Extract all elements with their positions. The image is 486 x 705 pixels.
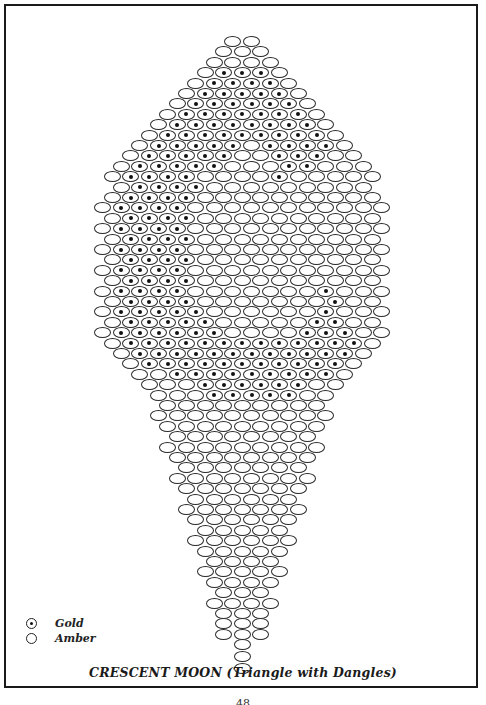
amber-bead bbox=[327, 379, 344, 390]
gold-bead bbox=[243, 78, 260, 89]
gold-bead bbox=[234, 67, 251, 78]
gold-bead bbox=[150, 327, 167, 338]
amber-bead bbox=[224, 514, 241, 525]
amber-bead bbox=[271, 275, 288, 286]
amber-bead bbox=[224, 431, 241, 442]
amber-bead bbox=[280, 452, 297, 463]
gold-bead bbox=[141, 317, 158, 328]
amber-bead bbox=[159, 109, 176, 120]
amber-bead bbox=[159, 400, 176, 411]
amber-bead bbox=[262, 286, 279, 297]
amber-bead bbox=[280, 78, 297, 89]
amber-bead bbox=[187, 514, 204, 525]
amber-bead bbox=[215, 525, 232, 536]
amber-bead bbox=[262, 182, 279, 193]
amber-bead bbox=[224, 182, 241, 193]
amber-bead bbox=[178, 442, 195, 453]
gold-bead bbox=[271, 150, 288, 161]
amber-bead bbox=[252, 150, 269, 161]
amber-bead bbox=[197, 483, 214, 494]
amber-bead bbox=[215, 234, 232, 245]
gold-bead bbox=[271, 130, 288, 141]
amber-bead bbox=[234, 150, 251, 161]
gold-bead bbox=[252, 338, 269, 349]
amber-bead bbox=[215, 483, 232, 494]
amber-bead bbox=[206, 244, 223, 255]
amber-bead bbox=[308, 171, 325, 182]
amber-bead bbox=[113, 161, 130, 172]
amber-bead bbox=[243, 577, 260, 588]
gold-bead bbox=[280, 390, 297, 401]
amber-bead bbox=[345, 234, 362, 245]
amber-bead bbox=[271, 213, 288, 224]
gold-bead bbox=[206, 161, 223, 172]
gold-bead bbox=[169, 348, 186, 359]
amber-bead bbox=[271, 254, 288, 265]
amber-bead bbox=[104, 254, 121, 265]
amber-bead bbox=[299, 182, 316, 193]
amber-bead bbox=[206, 182, 223, 193]
amber-bead bbox=[271, 234, 288, 245]
amber-bead bbox=[234, 651, 251, 662]
amber-bead bbox=[364, 213, 381, 224]
gold-bead bbox=[131, 182, 148, 193]
amber-bead bbox=[299, 306, 316, 317]
amber-bead bbox=[234, 546, 251, 557]
amber-bead bbox=[299, 431, 316, 442]
amber-bead bbox=[290, 192, 307, 203]
amber-bead bbox=[187, 431, 204, 442]
amber-bead bbox=[252, 462, 269, 473]
page-number: 48 bbox=[0, 699, 486, 705]
gold-bead bbox=[131, 161, 148, 172]
amber-bead bbox=[262, 556, 279, 567]
amber-bead bbox=[104, 275, 121, 286]
gold-bead bbox=[197, 358, 214, 369]
amber-bead bbox=[197, 504, 214, 515]
amber-bead bbox=[215, 442, 232, 453]
amber-bead bbox=[271, 483, 288, 494]
amber-bead bbox=[336, 140, 353, 151]
amber-bead bbox=[308, 379, 325, 390]
gold-bead bbox=[308, 130, 325, 141]
gold-bead bbox=[131, 348, 148, 359]
amber-bead bbox=[262, 327, 279, 338]
amber-bead bbox=[299, 98, 316, 109]
gold-bead bbox=[159, 338, 176, 349]
amber-bead bbox=[262, 244, 279, 255]
gold-bead bbox=[206, 98, 223, 109]
amber-bead bbox=[364, 275, 381, 286]
amber-bead bbox=[252, 171, 269, 182]
gold-bead bbox=[159, 130, 176, 141]
gold-bead bbox=[271, 358, 288, 369]
amber-bead bbox=[206, 577, 223, 588]
amber-bead bbox=[290, 504, 307, 515]
gold-bead bbox=[178, 192, 195, 203]
amber-bead bbox=[299, 265, 316, 276]
gold-bead bbox=[178, 234, 195, 245]
amber-bead bbox=[197, 67, 214, 78]
amber-bead bbox=[327, 171, 344, 182]
amber-bead bbox=[299, 410, 316, 421]
gold-bead bbox=[150, 244, 167, 255]
amber-bead bbox=[243, 598, 260, 609]
gold-bead bbox=[280, 119, 297, 130]
gold-bead bbox=[252, 67, 269, 78]
amber-bead bbox=[215, 566, 232, 577]
gold-bead bbox=[122, 338, 139, 349]
gold-bead bbox=[243, 390, 260, 401]
amber-bead bbox=[187, 244, 204, 255]
amber-bead bbox=[299, 202, 316, 213]
amber-bead bbox=[234, 421, 251, 432]
gold-bead bbox=[150, 223, 167, 234]
amber-bead bbox=[224, 473, 241, 484]
gold-bead bbox=[178, 358, 195, 369]
gold-bead bbox=[141, 358, 158, 369]
amber-bead bbox=[327, 275, 344, 286]
amber-bead bbox=[150, 410, 167, 421]
amber-bead bbox=[206, 598, 223, 609]
amber-bead bbox=[94, 306, 111, 317]
gold-bead bbox=[169, 223, 186, 234]
amber-bead bbox=[271, 462, 288, 473]
amber-bead bbox=[104, 192, 121, 203]
gold-bead bbox=[336, 348, 353, 359]
